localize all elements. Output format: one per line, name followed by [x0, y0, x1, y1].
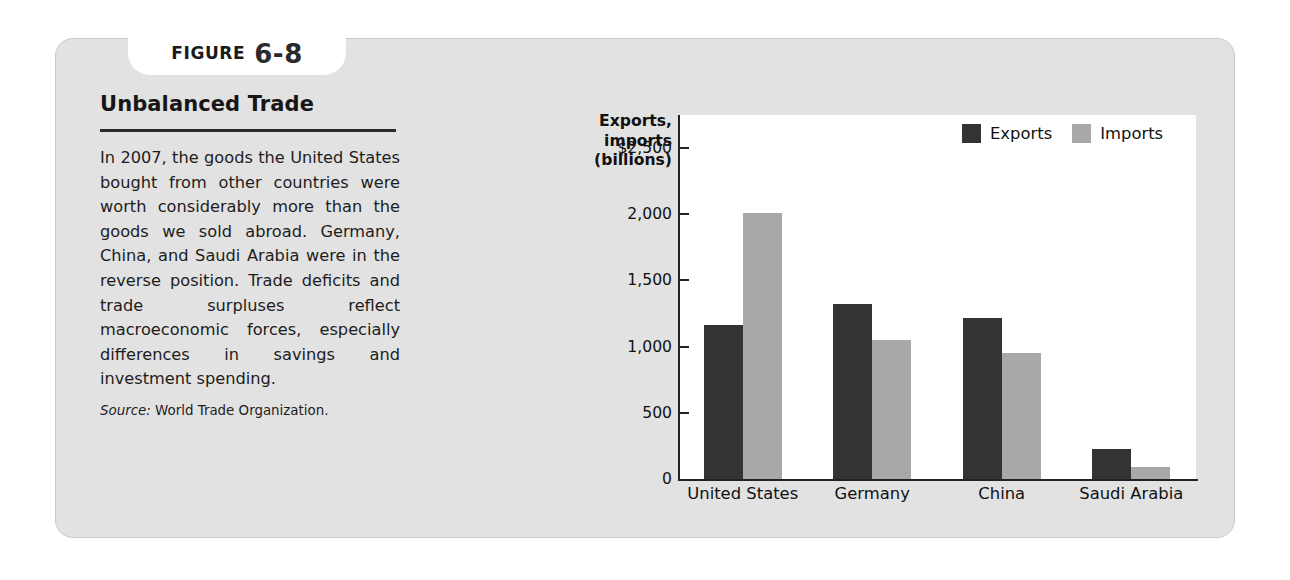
legend-item-exports: Exports — [962, 124, 1052, 143]
heading-divider — [100, 129, 396, 132]
y-tick-label: 500 — [642, 404, 672, 422]
figure-label: FIGURE — [171, 43, 245, 63]
legend-swatch-imports-icon — [1072, 124, 1091, 143]
source-label: Source: — [100, 403, 151, 418]
x-category-label: Saudi Arabia — [1079, 484, 1183, 503]
figure-heading: Unbalanced Trade — [100, 92, 400, 116]
bar-exports — [1092, 449, 1131, 479]
y-axis-tick-labels: 05001,0001,5002,000$2,500 — [560, 115, 672, 479]
bar-imports — [1002, 353, 1041, 479]
legend-item-imports: Imports — [1072, 124, 1163, 143]
bar-imports — [743, 213, 782, 479]
figure-text-column: Unbalanced Trade In 2007, the goods the … — [100, 92, 400, 418]
x-category-label: United States — [687, 484, 798, 503]
figure-screenshot: FIGURE 6-8 Unbalanced Trade In 2007, the… — [0, 0, 1290, 580]
x-category-label: China — [978, 484, 1025, 503]
y-tick-label: 1,500 — [627, 271, 672, 289]
y-tick-label: 1,000 — [627, 338, 672, 356]
bar-imports — [872, 340, 911, 479]
figure-number: 6-8 — [254, 39, 302, 69]
legend-swatch-exports-icon — [962, 124, 981, 143]
bar-imports — [1131, 467, 1170, 479]
legend-label-imports: Imports — [1100, 124, 1163, 143]
y-tick-label: $2,500 — [617, 139, 672, 157]
y-tick-label: 0 — [662, 470, 672, 488]
x-category-label: Germany — [835, 484, 910, 503]
source-text: World Trade Organization. — [155, 403, 328, 418]
bar-exports — [704, 325, 743, 479]
x-axis-line — [678, 479, 1198, 481]
y-tick-label: 2,000 — [627, 205, 672, 223]
bar-exports — [833, 304, 872, 479]
figure-number-tab: FIGURE 6-8 — [128, 30, 346, 75]
legend-label-exports: Exports — [990, 124, 1052, 143]
figure-body-text: In 2007, the goods the United States bou… — [100, 146, 400, 392]
chart-legend: Exports Imports — [962, 124, 1163, 143]
bar-exports — [963, 318, 1002, 479]
chart-bars — [678, 115, 1196, 479]
figure-source: Source: World Trade Organization. — [100, 403, 400, 418]
x-axis-category-labels: United StatesGermanyChinaSaudi Arabia — [678, 484, 1196, 514]
